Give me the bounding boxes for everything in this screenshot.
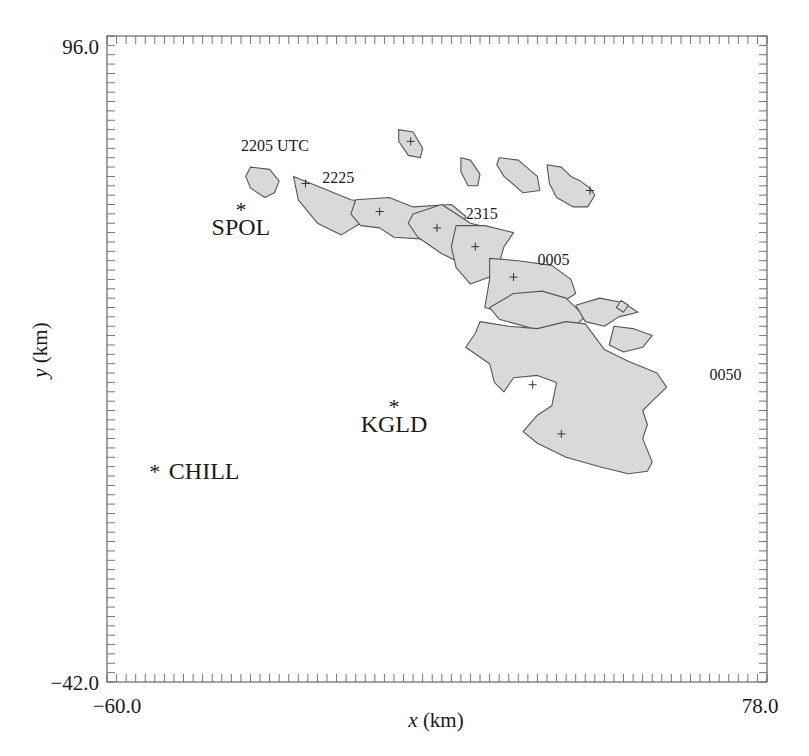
- radar-name-label: SPOL: [212, 214, 271, 240]
- cell-north-4-outline: [547, 165, 595, 207]
- cell-2205-outline: [246, 167, 280, 197]
- storm-track-chart: 2205 UTC2225231500050050 *SPOL*KGLD*CHIL…: [0, 0, 809, 756]
- x-axis-title: x (km): [407, 708, 463, 732]
- y-axis-variable: y: [28, 368, 52, 380]
- time-label: 0005: [537, 251, 569, 268]
- storm-cells: [246, 130, 667, 474]
- cell-north-3-outline: [497, 158, 540, 193]
- radar-site-chill: *CHILL: [149, 458, 239, 484]
- asterisk-icon: *: [149, 459, 160, 484]
- cell-0005-east2-outline: [609, 326, 652, 352]
- plot-frame: [107, 36, 767, 682]
- y-min-tick-label: −42.0: [50, 671, 99, 695]
- radar-name-label: CHILL: [169, 458, 240, 484]
- x-axis-unit: (km): [418, 708, 464, 732]
- time-label: 0050: [710, 366, 742, 383]
- radar-site-spol: *SPOL: [212, 197, 271, 240]
- radar-name-label: KGLD: [361, 411, 428, 437]
- time-label: 2315: [466, 205, 498, 222]
- y-max-tick-label: 96.0: [62, 35, 99, 59]
- axis-ticks: [107, 36, 767, 682]
- cell-north-2-outline: [461, 158, 480, 186]
- cell-0005-east-outline: [576, 298, 638, 326]
- x-min-tick-label: −60.0: [93, 694, 142, 718]
- time-label: 2225: [322, 169, 354, 186]
- y-axis-unit: (km): [28, 322, 52, 368]
- radar-site-kgld: *KGLD: [361, 394, 428, 437]
- radar-sites: *SPOL*KGLD*CHILL: [149, 197, 427, 484]
- x-max-tick-label: 78.0: [742, 694, 779, 718]
- y-axis-title: y (km): [28, 322, 52, 379]
- time-label: 2205 UTC: [241, 137, 309, 154]
- centroid-marker: [529, 381, 537, 389]
